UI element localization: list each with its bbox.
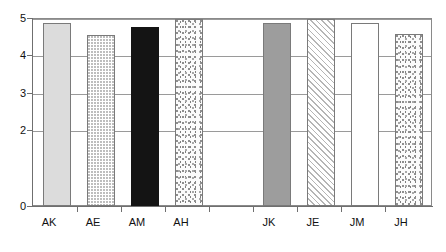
x-tickmark-4 <box>253 207 254 212</box>
x-label-jh: JH <box>381 216 421 228</box>
y-tickmark-4 <box>27 55 32 56</box>
bar-am <box>131 27 159 207</box>
x-axis-line <box>32 206 433 207</box>
bar-jh <box>395 34 423 206</box>
x-label-jm: JM <box>337 216 377 228</box>
y-tick-label-3: 3 <box>0 88 26 99</box>
x-tickmark-3 <box>209 207 210 212</box>
bar-jk <box>263 23 291 206</box>
y-tickmark-5 <box>27 18 32 19</box>
y-tick-label-0: 0 <box>0 201 26 212</box>
x-label-ae: AE <box>73 216 113 228</box>
x-tickmark-2 <box>165 207 166 212</box>
bar-ae <box>87 35 115 206</box>
x-label-ah: AH <box>161 216 201 228</box>
bar-chart: 5 4 3 2 0 AK AE AM AH JK JE JM JH <box>0 0 446 252</box>
bar-jm <box>351 23 379 206</box>
y-tick-label-5: 5 <box>0 13 26 24</box>
y-tickmark-0 <box>27 206 32 207</box>
bar-ah <box>175 19 203 206</box>
x-tickmark-6 <box>341 207 342 212</box>
y-tick-label-2: 2 <box>0 125 26 136</box>
x-tickmark-0 <box>77 207 78 212</box>
x-label-jk: JK <box>249 216 289 228</box>
x-label-ak: AK <box>29 216 69 228</box>
y-tickmark-2 <box>27 130 32 131</box>
x-tickmark-7 <box>385 207 386 212</box>
x-tickmark-1 <box>121 207 122 212</box>
bar-ak <box>43 23 71 206</box>
bar-je <box>307 19 335 206</box>
y-tick-label-4: 4 <box>0 50 26 61</box>
x-tickmark-5 <box>297 207 298 212</box>
x-label-je: JE <box>293 216 333 228</box>
x-label-am: AM <box>117 216 157 228</box>
y-tickmark-3 <box>27 93 32 94</box>
bars-layer <box>33 19 432 206</box>
